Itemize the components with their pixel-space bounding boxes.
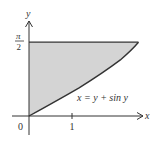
- y-tick-label-denominator: 2: [17, 42, 22, 52]
- shaded-region: [29, 42, 139, 116]
- y-tick-label-numerator: π: [16, 31, 21, 41]
- x-axis-label: x: [144, 110, 150, 121]
- origin-label: 0: [18, 121, 23, 132]
- x-tick-label-1: 1: [70, 121, 75, 132]
- y-axis-label: y: [25, 8, 31, 19]
- curve-label: x = y + sin y: [76, 92, 129, 103]
- region-diagram: y x 0 1 π 2 x = y + sin y: [0, 0, 153, 145]
